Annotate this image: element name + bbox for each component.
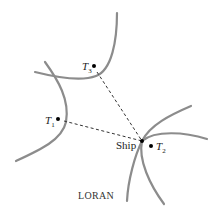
ship-dot — [140, 139, 144, 143]
line-t1-ship — [64, 121, 142, 141]
t3-dot — [92, 64, 96, 68]
t1-dot — [56, 117, 60, 121]
line-t3-ship — [97, 72, 142, 141]
t2-dot — [149, 144, 153, 148]
t3-label: T3 — [82, 60, 92, 75]
ship-label: Ship — [116, 139, 137, 151]
t1-label: T1 — [45, 114, 55, 129]
loran-diagram: T3 T1 T2 Ship LORAN — [0, 0, 221, 214]
hyperbola-ship-right — [142, 133, 207, 141]
t2-label: T2 — [156, 140, 166, 155]
caption: LORAN — [78, 190, 114, 201]
hyperbola-t3 — [35, 13, 117, 79]
